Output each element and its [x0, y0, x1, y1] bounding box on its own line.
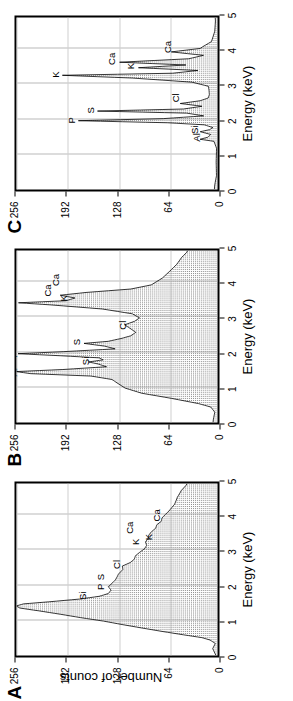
y-axis-tick-label: 128: [112, 434, 122, 464]
y-axis-tick-label: 256: [9, 201, 19, 231]
y-axis-title: Number of counts: [31, 671, 191, 684]
y-axis-tick-label: 0: [214, 434, 224, 464]
y-axis-tick: [65, 191, 66, 196]
y-axis-tick: [14, 424, 15, 429]
x-axis-tick: [219, 155, 224, 156]
y-axis-tick-label: 192: [60, 434, 70, 464]
peak-label: S: [85, 107, 95, 113]
x-axis-tick-label: 5: [227, 4, 237, 26]
x-axis-tick-label: 4: [227, 505, 237, 527]
x-axis-tick-label: 0: [227, 413, 237, 435]
y-axis-tick-label: 64: [163, 201, 173, 231]
peak-label: Si: [189, 125, 199, 133]
peak-label: S: [95, 573, 105, 579]
y-axis-tick: [65, 657, 66, 662]
y-axis-tick-label: 64: [163, 434, 173, 464]
y-axis-tick-label: 128: [112, 201, 122, 231]
y-axis-tick: [219, 424, 220, 429]
peak-label: K: [143, 533, 153, 539]
x-axis-tick-label: 4: [227, 272, 237, 294]
y-axis-tick: [168, 424, 169, 429]
peak-label: P: [66, 117, 76, 123]
x-axis-tick: [219, 317, 224, 318]
peak-label: Cl: [111, 560, 121, 569]
x-axis-tick: [219, 353, 224, 354]
peak-label: Ca: [151, 509, 161, 521]
spectrum-trace-a: [16, 483, 217, 655]
y-axis-tick-label: 192: [60, 201, 70, 231]
peak-label: P: [14, 351, 18, 357]
y-axis-tick: [14, 657, 15, 662]
x-axis-tick: [219, 282, 224, 283]
figure-rotated-container: AAlSiPSClKCaKCa012345064128192256Energy …: [0, 0, 293, 701]
x-axis-tick: [219, 550, 224, 551]
x-axis-tick-label: 0: [227, 180, 237, 202]
peak-label: K: [130, 538, 140, 544]
x-axis-tick: [219, 480, 224, 481]
x-axis-tick-label: 2: [227, 576, 237, 598]
x-axis-tick-label: 5: [227, 470, 237, 492]
x-axis-tick-label: 1: [227, 145, 237, 167]
peak-label: K: [125, 62, 135, 68]
y-axis-tick: [219, 657, 220, 662]
plot-area-b: AlSiPSClKCaKCa: [14, 248, 219, 424]
y-axis-tick: [14, 191, 15, 196]
y-axis-tick-label: 256: [9, 667, 19, 697]
peak-label: Ca: [50, 273, 60, 285]
y-axis-tick: [117, 424, 118, 429]
y-axis-tick-label: 0: [214, 667, 224, 697]
x-axis-tick-label: 2: [227, 343, 237, 365]
y-axis-tick: [168, 191, 169, 196]
x-axis-tick-label: 3: [227, 74, 237, 96]
peak-label: Ca: [162, 40, 172, 52]
x-axis-title: Energy (keV): [240, 481, 253, 657]
peak-label: Cl: [170, 93, 180, 102]
peak-label: K: [50, 71, 60, 77]
spectrum-panel-c: CAlSiPSClKCaKCa012345064128192256Energy …: [0, 2, 293, 235]
spectrum-trace-c: [16, 17, 217, 189]
peak-label: Cl: [117, 320, 127, 329]
x-axis-title: Energy (keV): [240, 15, 253, 191]
y-axis-tick: [65, 424, 66, 429]
x-axis-tick-label: 4: [227, 39, 237, 61]
x-axis-tick: [219, 14, 224, 15]
peak-label: P: [95, 583, 105, 589]
x-axis-tick: [219, 120, 224, 121]
peak-label: K: [14, 298, 15, 304]
peak-label: Ca: [124, 521, 134, 533]
x-axis-tick: [219, 621, 224, 622]
spectrum-trace-b: [16, 250, 217, 422]
x-axis-tick-label: 2: [227, 110, 237, 132]
spectrum-panel-a: AAlSiPSClKCaKCa012345064128192256Energy …: [0, 468, 293, 701]
y-axis-tick-label: 0: [214, 201, 224, 231]
y-axis-tick: [219, 191, 220, 196]
peak-label: Ca: [106, 52, 116, 64]
figure-panels-row: AAlSiPSClKCaKCa012345064128192256Energy …: [0, 0, 293, 701]
peak-label: K: [58, 295, 68, 301]
x-axis-tick-label: 3: [227, 540, 237, 562]
x-axis-tick: [219, 247, 224, 248]
y-axis-tick: [117, 191, 118, 196]
x-axis-tick: [219, 515, 224, 516]
y-axis-tick: [168, 657, 169, 662]
x-axis-tick-label: 1: [227, 611, 237, 633]
x-axis-title: Energy (keV): [240, 248, 253, 424]
x-axis-tick-label: 5: [227, 237, 237, 259]
x-axis-tick-label: 0: [227, 646, 237, 668]
x-axis-tick: [219, 388, 224, 389]
peak-label: Si: [80, 356, 90, 364]
x-axis-tick: [219, 84, 224, 85]
x-axis-tick-label: 3: [227, 307, 237, 329]
peak-label: Si: [77, 591, 87, 599]
y-axis-tick: [117, 657, 118, 662]
x-axis-tick: [219, 586, 224, 587]
plot-area-c: AlSiPSClKCaKCa: [14, 15, 219, 191]
peak-label: Al: [14, 601, 16, 609]
plot-area-a: AlSiPSClKCaKCa: [14, 481, 219, 657]
peak-label: Al: [191, 133, 201, 141]
spectrum-panel-b: BAlSiPSClKCaKCa012345064128192256Energy …: [0, 235, 293, 468]
peak-label: S: [71, 338, 81, 344]
peak-label: Al: [14, 368, 18, 376]
y-axis-tick-label: 256: [9, 434, 19, 464]
x-axis-tick: [219, 49, 224, 50]
